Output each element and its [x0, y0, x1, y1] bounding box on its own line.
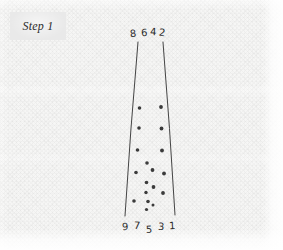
ink-dot: [152, 204, 155, 207]
bottom-digit-1: 7: [134, 221, 141, 231]
ink-dot: [152, 185, 156, 189]
ink-dot: [160, 127, 164, 131]
diagram-canvas: Step 1 8642 97531: [0, 0, 283, 250]
bottom-digit-0: 9: [122, 222, 129, 232]
ink-dot: [144, 191, 147, 194]
top-digit-2: 4: [150, 27, 157, 37]
dot-cluster: [132, 105, 166, 211]
ink-dot: [162, 172, 166, 176]
ink-dot: [138, 106, 142, 110]
top-digit-1: 6: [141, 28, 148, 38]
ink-dot: [145, 181, 149, 185]
bottom-digit-3: 3: [158, 222, 165, 232]
top-digit-0: 8: [129, 29, 136, 40]
ink-dot: [151, 168, 155, 172]
ink-dot: [160, 149, 164, 153]
ink-dot: [159, 105, 163, 109]
ink-dot: [134, 171, 138, 175]
bottom-digit-4: 1: [169, 221, 176, 231]
ink-dot: [137, 126, 141, 130]
ink-dot: [146, 200, 150, 204]
ink-dot: [145, 161, 149, 165]
ink-dot: [132, 199, 136, 203]
funnel-lines: [125, 42, 175, 216]
ink-dot: [145, 208, 148, 211]
ink-dot: [136, 148, 140, 152]
bottom-digit-2: 5: [146, 225, 153, 235]
top-digit-3: 2: [158, 28, 166, 39]
funnel-left-line: [125, 42, 138, 216]
funnel-right-line: [163, 42, 175, 215]
ink-dot: [161, 191, 165, 195]
